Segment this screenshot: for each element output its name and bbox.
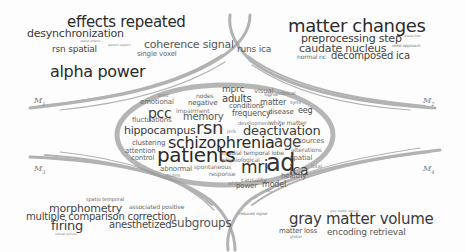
term-m2: normal nc bbox=[297, 54, 326, 60]
module-label-subscript: 4 bbox=[431, 169, 434, 175]
term-m1: single voxel bbox=[137, 51, 177, 58]
term-center: fluctuations bbox=[132, 117, 172, 124]
term-center: signal bbox=[264, 92, 278, 97]
term-m2: seed approach bbox=[392, 44, 421, 48]
term-m2: spatial filter bbox=[404, 35, 421, 38]
term-m1: spatial effects bbox=[80, 40, 100, 43]
term-center: mutes bbox=[165, 173, 180, 178]
term-center: syns bbox=[290, 100, 301, 105]
module-label-base: M bbox=[34, 96, 42, 105]
term-center: alterations bbox=[291, 147, 322, 153]
term-center: frequency bbox=[232, 110, 271, 118]
term-center: negative bbox=[188, 100, 218, 107]
term-m4: reduced signal bbox=[239, 212, 267, 216]
term-center: eeg bbox=[298, 107, 312, 115]
module-label-m1: M1 bbox=[34, 96, 45, 107]
term-m3: anesthetized bbox=[109, 220, 171, 230]
term-center: mri bbox=[241, 159, 268, 176]
term-m1: coherence signal bbox=[144, 39, 234, 50]
term-m1: desynchronization bbox=[27, 28, 124, 39]
term-m4: global bbox=[290, 235, 302, 239]
module-label-m3: M3 bbox=[34, 164, 45, 175]
term-m3: firing bbox=[51, 219, 83, 232]
word-cloud-diagram: M1M2M3M4 effects repeateddesynchronizati… bbox=[0, 0, 466, 252]
term-center: matter bbox=[260, 99, 286, 107]
term-m2: decomposed ica bbox=[331, 51, 410, 61]
term-m4: encoding retrieval bbox=[327, 228, 406, 237]
module-label-base: M bbox=[423, 96, 431, 105]
term-m1: runs ica bbox=[237, 45, 271, 54]
term-center: response bbox=[209, 171, 235, 177]
term-m3: associated positive bbox=[129, 204, 184, 210]
module-label-subscript: 2 bbox=[431, 101, 434, 107]
module-label-base: M bbox=[423, 164, 431, 173]
module-label-m4: M4 bbox=[423, 164, 434, 175]
term-center: disease bbox=[268, 109, 294, 116]
term-m3: cellular activity bbox=[55, 233, 77, 236]
term-m1: rsn spatial bbox=[52, 45, 97, 54]
module-label-base: M bbox=[34, 164, 42, 173]
term-center: power bbox=[236, 183, 257, 190]
term-center: nc bbox=[266, 188, 272, 193]
term-center: sources bbox=[298, 138, 324, 145]
module-label-subscript: 3 bbox=[42, 169, 45, 175]
term-m1: pattern support bbox=[108, 44, 131, 47]
module-label-subscript: 1 bbox=[42, 101, 45, 107]
module-label-m2: M2 bbox=[423, 96, 434, 107]
term-center: clinical bbox=[279, 91, 296, 96]
term-center: total bbox=[311, 164, 322, 169]
term-m4: gray matter volume bbox=[289, 212, 433, 227]
term-center: control bbox=[131, 155, 154, 162]
term-m3: subgroups bbox=[171, 217, 231, 229]
term-m1: alpha power bbox=[50, 64, 145, 80]
term-center: healthy bbox=[281, 173, 306, 180]
